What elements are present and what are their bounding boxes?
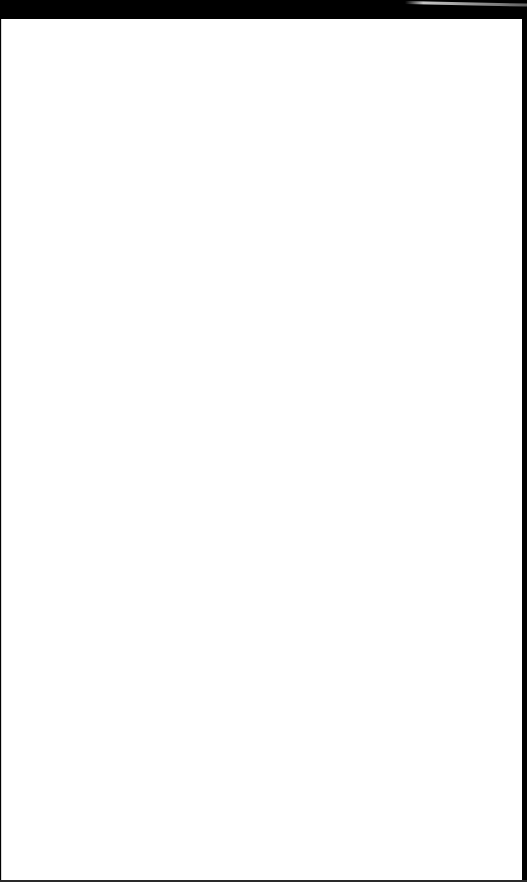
blank-page	[1, 19, 523, 880]
bezel-reflection	[405, 1, 527, 7]
top-bezel	[0, 0, 527, 19]
right-bezel	[522, 19, 527, 882]
